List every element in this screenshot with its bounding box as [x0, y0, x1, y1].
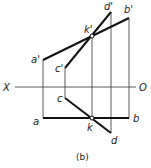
label-o: O — [139, 82, 147, 93]
label-a-prime: a' — [31, 54, 40, 65]
label-b-prime: b' — [124, 4, 133, 15]
label-c-prime: c' — [55, 63, 63, 74]
label-x: X — [2, 82, 11, 93]
label-a: a — [33, 116, 39, 127]
label-d: d — [111, 135, 118, 146]
point-k-marker — [90, 116, 94, 120]
label-k: k — [87, 122, 94, 133]
projection-diagram: X O a' b' c' d' k' a b c d k (b) — [0, 0, 151, 168]
label-d-prime: d' — [104, 1, 113, 12]
label-c: c — [57, 93, 63, 104]
label-k-prime: k' — [84, 24, 93, 35]
line-c-prime-d-prime — [65, 12, 111, 68]
figure-caption: (b) — [76, 152, 89, 162]
label-b: b — [133, 113, 139, 124]
